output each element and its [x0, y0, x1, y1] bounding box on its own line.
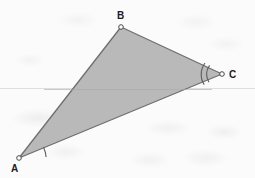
vertex-marker-c[interactable]	[220, 72, 225, 77]
vertex-marker-a[interactable]	[17, 156, 22, 161]
vertex-marker-b[interactable]	[119, 25, 124, 30]
triangle-diagram-svg	[0, 0, 255, 178]
vertex-label-a: A	[11, 164, 18, 174]
geometry-figure-canvas: A B C	[0, 0, 255, 178]
triangle-abc-shape	[19, 27, 222, 158]
vertex-label-c: C	[229, 70, 236, 80]
vertex-label-b: B	[117, 11, 124, 21]
angle-mark-a-arc-1	[44, 147, 47, 157]
